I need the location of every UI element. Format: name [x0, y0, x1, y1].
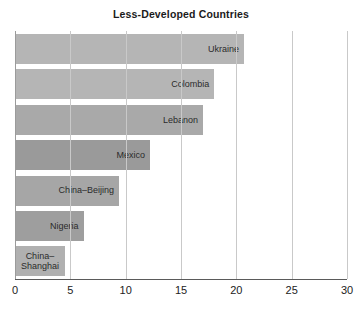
bar[interactable]: China– Shanghai	[15, 246, 65, 276]
chart-title: Less-Developed Countries	[0, 8, 362, 20]
bar[interactable]: Colombia	[15, 69, 214, 99]
gridline-15	[181, 31, 182, 279]
gridline-10	[126, 31, 127, 279]
bar-label: Ukraine	[208, 44, 244, 55]
bar-label: China–Beijing	[58, 185, 119, 196]
x-tick-label-20: 20	[230, 284, 242, 296]
gridline-0	[15, 31, 16, 279]
bar[interactable]: Nigeria	[15, 211, 84, 241]
gridline-20	[236, 31, 237, 279]
gridline-30	[347, 31, 348, 279]
x-tick-label-5: 5	[67, 284, 73, 296]
gridline-5	[70, 31, 71, 279]
x-tick-label-15: 15	[175, 284, 187, 296]
plot-area: UkraineColombiaLebanonMexicoChina–Beijin…	[15, 31, 347, 279]
bar-label: Nigeria	[50, 221, 84, 232]
bar[interactable]: China–Beijing	[15, 176, 119, 206]
x-tick-label-0: 0	[12, 284, 18, 296]
bar[interactable]: Lebanon	[15, 105, 203, 135]
bar-label: Mexico	[116, 150, 150, 161]
bar-label: Colombia	[171, 79, 214, 90]
x-tick-label-10: 10	[120, 284, 132, 296]
x-tick-label-25: 25	[286, 284, 298, 296]
bar-label: Lebanon	[163, 115, 203, 126]
chart-figure: Less-Developed Countries UkraineColombia…	[0, 0, 362, 316]
gridline-25	[292, 31, 293, 279]
bar[interactable]: Mexico	[15, 140, 150, 170]
bar-label: China– Shanghai	[15, 251, 65, 272]
x-tick-label-30: 30	[341, 284, 353, 296]
bar[interactable]: Ukraine	[15, 34, 244, 64]
x-axis-line	[15, 279, 347, 280]
